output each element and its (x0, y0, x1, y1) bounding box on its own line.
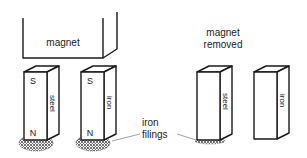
material-label-iron: iron (278, 94, 287, 107)
material-label-iron: iron (105, 96, 114, 109)
steel-bar-magnetized: S N steel (19, 66, 59, 151)
north-pole-label: N (87, 128, 94, 138)
south-pole-label: S (87, 76, 93, 86)
magnet-label: magnet (46, 37, 80, 48)
magnet: magnet (23, 12, 117, 58)
magnet-removed-label: magnet removed (204, 27, 243, 50)
south-pole-label: S (30, 76, 36, 86)
removed-label-line2: removed (204, 39, 243, 50)
steel-bar-after-removal: steel (195, 66, 232, 144)
filings-label-line1: iron (142, 117, 159, 128)
iron-bar-after-removal: iron (254, 66, 289, 139)
magnetism-diagram: magnet S N steel S N iron iron filings m… (0, 0, 307, 158)
material-label-steel: steel (221, 93, 230, 110)
iron-bar-magnetized: S N iron (76, 66, 116, 151)
iron-filings-callout: iron filings (112, 117, 196, 141)
material-label-steel: steel (48, 95, 57, 112)
removed-label-line1: magnet (206, 27, 240, 38)
filings-label-line2: filings (142, 129, 168, 140)
north-pole-label: N (30, 128, 37, 138)
